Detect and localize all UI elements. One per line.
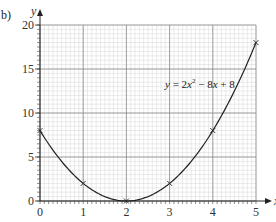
x-tick-label: 1 (80, 205, 86, 219)
x-tick-label: 3 (167, 205, 173, 219)
y-axis-arrow-icon (37, 9, 43, 16)
eq-part: − 8 (196, 78, 213, 90)
y-tick-label: 20 (22, 18, 34, 32)
x-tick-label: 4 (210, 205, 216, 219)
x-tick-label: 0 (37, 205, 43, 219)
y-tick-label: 5 (28, 150, 34, 164)
y-axis-label: y (30, 4, 37, 18)
x-axis-label: x (273, 194, 276, 208)
y-tick-label: 10 (22, 106, 34, 120)
equation-label: y = 2x2 − 8x + 8 (165, 77, 235, 90)
x-axis-arrow-icon (265, 198, 272, 204)
y-tick-label: 0 (28, 194, 34, 208)
eq-part: + 8 (218, 78, 235, 90)
x-tick-label: 5 (253, 205, 259, 219)
eq-part: = 2 (170, 78, 187, 90)
chart: 01234505101520xy (0, 0, 276, 222)
x-tick-label: 2 (123, 205, 129, 219)
y-tick-label: 15 (22, 62, 34, 76)
